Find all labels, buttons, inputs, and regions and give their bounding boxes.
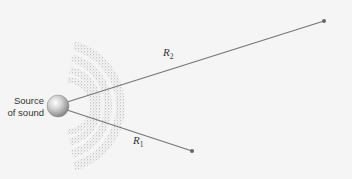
r1-label: R1 [133,134,143,149]
r2-label-letter: R [163,46,170,58]
source-label-line-1: Source [0,95,44,107]
r2-endpoint-dot [322,19,326,23]
r1-label-subscript: 1 [140,140,144,149]
source-label-line-2: of sound [0,107,44,119]
sound-propagation-diagram [0,0,352,179]
sound-source-sphere [47,95,69,117]
sound-wave-fronts [67,46,120,166]
wave-front-1 [67,80,93,132]
source-of-sound-label: Source of sound [0,95,44,119]
r1-endpoint-dot [190,149,194,153]
r2-label-subscript: 2 [170,52,174,61]
r1-label-letter: R [133,134,140,146]
r2-label: R2 [163,46,173,61]
